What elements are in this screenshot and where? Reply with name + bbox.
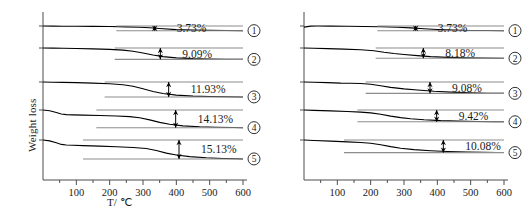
x-tick-label: 300 [396, 187, 412, 198]
weight-loss-percent-label: 3.73% [177, 22, 207, 34]
plot-area-left: 1002003004005006003.73%19.09%211.93%314.… [0, 0, 261, 222]
y-axis-label-left: Weight loss [26, 98, 38, 152]
weight-loss-percent-label: 11.93% [191, 83, 226, 95]
weight-loss-percent-label: 10.08% [465, 140, 501, 152]
x-tick-label: 100 [329, 187, 345, 198]
x-tick-label: 600 [235, 187, 251, 198]
x-tick-label: 600 [496, 187, 512, 198]
x-axis-label-left: T/ ℃ [107, 196, 132, 209]
series-marker-circled-number: 2 [248, 53, 260, 65]
weight-loss-percent-label: 14.13% [198, 113, 234, 125]
series-marker-circled-number: 1 [248, 25, 260, 37]
plot-area-right: 1002003004005006003.73%18.18%29.08%39.42… [261, 0, 522, 222]
chart-panel-left: 1002003004005006003.73%19.09%211.93%314.… [0, 0, 261, 222]
svg-text:2: 2 [252, 55, 257, 65]
weight-loss-arrow [441, 140, 446, 153]
weight-loss-arrow [158, 48, 163, 59]
series-marker-circled-number: 2 [509, 52, 521, 64]
svg-text:2: 2 [513, 54, 518, 64]
weight-loss-percent-label: 9.09% [182, 48, 212, 60]
weight-loss-percent-label: 15.13% [201, 143, 237, 155]
svg-text:3: 3 [252, 92, 257, 102]
weight-loss-percent-label: 9.42% [459, 110, 489, 122]
chart-panel-right: 1002003004005006003.73%18.18%29.08%39.42… [261, 0, 522, 222]
tga-figure: 1002003004005006003.73%19.09%211.93%314.… [0, 0, 522, 222]
tga-curve [304, 26, 504, 31]
svg-text:4: 4 [513, 117, 518, 127]
svg-text:4: 4 [252, 123, 257, 133]
weight-loss-percent-label: 9.08% [452, 82, 482, 94]
x-tick-label: 500 [202, 187, 218, 198]
x-tick-label: 100 [68, 187, 84, 198]
svg-text:3: 3 [513, 89, 518, 99]
x-tick-label: 400 [429, 187, 445, 198]
tga-curve [43, 48, 243, 59]
series-marker-circled-number: 4 [509, 116, 521, 128]
tga-curve [43, 26, 243, 31]
x-tick-label: 200 [363, 187, 379, 198]
svg-text:5: 5 [252, 154, 257, 164]
series-marker-circled-number: 5 [509, 147, 521, 159]
svg-text:1: 1 [513, 26, 518, 36]
x-tick-label: 300 [135, 187, 151, 198]
series-marker-circled-number: 3 [248, 91, 260, 103]
series-marker-circled-number: 5 [248, 153, 260, 165]
weight-loss-percent-label: 3.73% [438, 22, 468, 34]
x-tick-label: 500 [463, 187, 479, 198]
svg-text:5: 5 [513, 148, 518, 158]
weight-loss-arrow [427, 82, 432, 93]
weight-loss-percent-label: 8.18% [445, 47, 475, 59]
series-marker-circled-number: 3 [509, 87, 521, 99]
svg-text:1: 1 [252, 26, 257, 36]
series-marker-circled-number: 1 [509, 25, 521, 37]
series-marker-circled-number: 4 [248, 122, 260, 134]
x-tick-label: 400 [168, 187, 184, 198]
